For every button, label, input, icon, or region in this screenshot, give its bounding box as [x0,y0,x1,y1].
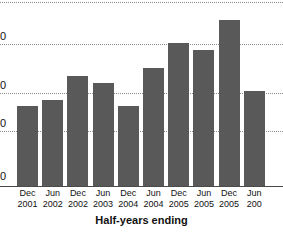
bar [67,76,88,186]
x-axis-tick-year: 2004 [114,199,142,210]
x-axis-tick-label: Dec 2005 [165,188,193,210]
x-axis-tick-year: 2002 [64,199,92,210]
x-axis-tick-year: 2002 [39,199,67,210]
bar [244,91,265,186]
y-axis-tick-label: 0 [0,31,14,42]
x-axis-tick-year: 200 [240,199,268,210]
x-axis-tick-label: Jun 2003 [89,188,117,210]
x-axis-tick-year: 2001 [14,199,42,210]
x-axis-tick-month: Dec [114,188,142,199]
x-axis-tick-labels: Dec 2001 Jun 2002 Dec 2002 Jun 2003 Dec … [0,188,283,214]
x-axis-tick-label: Dec 2004 [114,188,142,210]
bar-chart: 0 0 0 0 Dec 2001 Jun 2002 Dec 2002 [0,0,283,233]
x-axis-title: Half-years ending [0,214,283,227]
x-axis-tick-label: Dec 2002 [64,188,92,210]
y-axis-tick-label: 0 [0,80,14,91]
bar [118,106,139,186]
bar [17,106,38,186]
bar [219,20,240,186]
x-axis-tick-month: Jun [39,188,67,199]
x-axis-tick-month: Dec [14,188,42,199]
x-axis-line [0,186,283,187]
x-axis-tick-label: Jun 2002 [39,188,67,210]
x-axis-tick-year: 2005 [190,199,218,210]
gridline [0,44,283,45]
bar [42,100,63,186]
x-axis-tick-year: 2003 [89,199,117,210]
bar [93,83,114,186]
x-axis-tick-label: Dec 2001 [14,188,42,210]
x-axis-tick-year: 2004 [140,199,168,210]
bar [168,43,189,186]
x-axis-tick-year: 2005 [215,199,243,210]
x-axis-tick-month: Jun [89,188,117,199]
gridline [0,93,283,94]
bar [143,68,164,186]
x-axis-tick-month: Jun [190,188,218,199]
x-axis-tick-label: Dec 2005 [215,188,243,210]
y-axis-tick-label: 0 [0,118,14,129]
x-axis-tick-month: Dec [64,188,92,199]
y-axis-tick-label: 0 [0,171,14,182]
x-axis-tick-year: 2005 [165,199,193,210]
x-axis-tick-label: Jun 2004 [140,188,168,210]
x-axis-tick-month: Dec [215,188,243,199]
plot-area: 0 0 0 0 [0,0,283,187]
bar [193,50,214,186]
x-axis-tick-month: Jun [140,188,168,199]
x-axis-tick-label: Jun 200 [240,188,268,210]
x-axis-tick-month: Jun [240,188,268,199]
gridline [0,2,283,3]
x-axis-tick-month: Dec [165,188,193,199]
x-axis-tick-label: Jun 2005 [190,188,218,210]
